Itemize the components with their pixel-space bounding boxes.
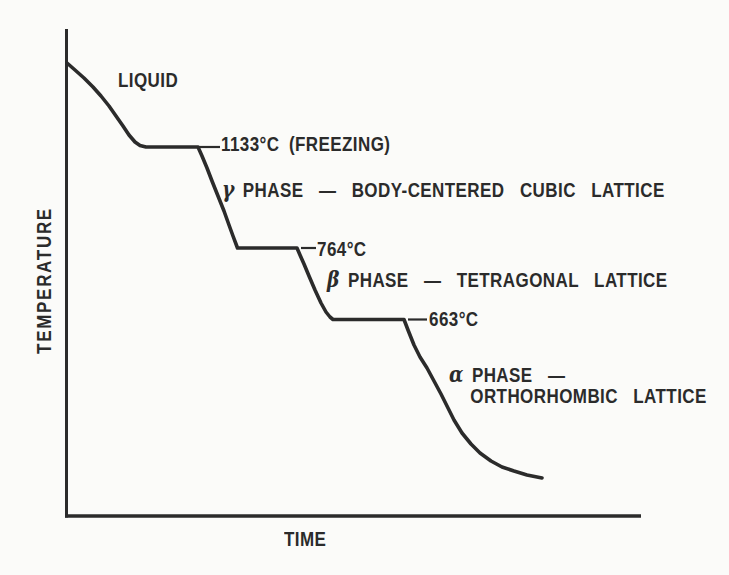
cooling-curve-figure: TEMPERATURE TIME LIQUID 1133°C (FREEZING… (0, 0, 729, 575)
alpha-phase-label: αPHASE — ORTHORHOMBIC LATTICE (449, 364, 707, 407)
alpha-phase-line1-text: PHASE — (472, 364, 565, 386)
beta-phase-text: PHASE — TETRAGONAL LATTICE (348, 269, 668, 291)
beta-phase-label: βPHASE — TETRAGONAL LATTICE (327, 269, 668, 291)
label-663c: 663°C (429, 309, 479, 330)
freezing-point-label: 1133°C (FREEZING) (221, 134, 390, 155)
gamma-phase-label: γPHASE — BODY-CENTERED CUBIC LATTICE (222, 179, 665, 201)
gamma-symbol: γ (222, 176, 234, 202)
time-axis-label: TIME (284, 529, 326, 550)
alpha-phase-line1: αPHASE — (449, 364, 707, 386)
alpha-symbol: α (449, 361, 463, 387)
alpha-phase-line2: ORTHORHOMBIC LATTICE (470, 386, 707, 407)
beta-symbol: β (327, 266, 339, 292)
gamma-phase-text: PHASE — BODY-CENTERED CUBIC LATTICE (243, 179, 665, 201)
temperature-axis-label: TEMPERATURE (34, 196, 55, 366)
label-764c: 764°C (317, 239, 367, 260)
liquid-label: LIQUID (118, 70, 178, 91)
